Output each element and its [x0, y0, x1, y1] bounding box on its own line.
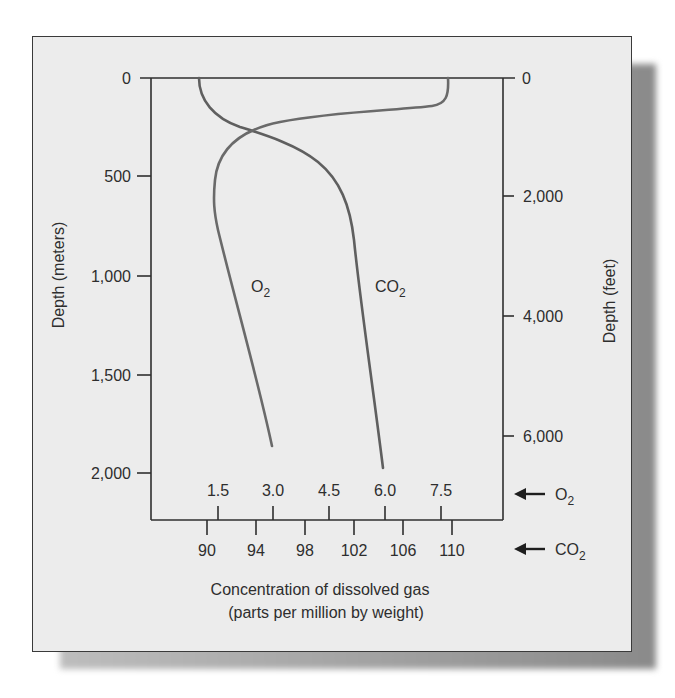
depth-profile-chart: 0 500 1,000 1,500 2,000 0 2,000 4,000 6,… — [0, 0, 675, 698]
arrow-left-icon — [514, 543, 526, 555]
y-right-axis-title: Depth (feet) — [601, 259, 618, 343]
o2-axis-ticks — [218, 506, 441, 520]
x-axis-title-line1: Concentration of dissolved gas — [211, 581, 430, 598]
x-o2-tick-label: 7.5 — [430, 482, 452, 499]
o2-scale-marker: O2 — [514, 486, 574, 508]
svg-text:O2: O2 — [555, 486, 574, 508]
x-o2-tick-label: 6.0 — [374, 482, 396, 499]
o2-curve — [199, 78, 383, 468]
x-co2-tick-label: 102 — [341, 542, 368, 559]
y-right-tick-label: 0 — [522, 70, 531, 87]
left-axis-labels: 0 500 1,000 1,500 2,000 — [91, 70, 131, 482]
co2-curve — [214, 78, 448, 446]
arrow-left-icon — [514, 488, 526, 500]
y-left-tick-label: 1,500 — [91, 367, 131, 384]
x-axis-title-line2: (parts per million by weight) — [228, 604, 424, 621]
y-left-tick-label: 500 — [104, 168, 131, 185]
co2-marker-subscript: 2 — [579, 549, 586, 563]
y-left-axis-title: Depth (meters) — [50, 222, 67, 329]
y-right-tick-label: 2,000 — [523, 188, 563, 205]
svg-text:CO2: CO2 — [555, 541, 586, 563]
x-co2-tick-label: 110 — [439, 542, 465, 559]
plot-frame — [140, 78, 515, 520]
x-co2-tick-label: 90 — [198, 542, 216, 559]
o2-marker-label: O — [555, 486, 567, 503]
y-left-tick-label: 2,000 — [91, 465, 131, 482]
y-right-tick-label: 4,000 — [523, 308, 563, 325]
co2-marker-label: CO — [555, 541, 579, 558]
y-left-tick-label: 0 — [122, 70, 131, 87]
x-co2-tick-label: 98 — [296, 542, 314, 559]
right-axis-labels: 0 2,000 4,000 6,000 — [522, 70, 563, 445]
x-co2-tick-label: 94 — [247, 542, 265, 559]
o2-marker-subscript: 2 — [567, 494, 574, 508]
right-axis-ticks — [503, 196, 514, 436]
x-co2-tick-label: 106 — [390, 542, 417, 559]
o2-axis-labels: 1.5 3.0 4.5 6.0 7.5 — [207, 482, 452, 499]
x-o2-tick-label: 1.5 — [207, 482, 229, 499]
co2-axis-labels: 90 94 98 102 106 110 — [198, 542, 465, 559]
y-right-tick-label: 6,000 — [523, 428, 563, 445]
co2-curve-label: CO2 — [375, 278, 406, 300]
y-left-tick-label: 1,000 — [91, 268, 131, 285]
x-o2-tick-label: 3.0 — [262, 482, 284, 499]
co2-scale-marker: CO2 — [514, 541, 586, 563]
co2-axis-ticks — [207, 520, 452, 535]
o2-curve-label: O2 — [251, 278, 270, 300]
left-axis-ticks — [137, 176, 151, 473]
x-o2-tick-label: 4.5 — [318, 482, 340, 499]
